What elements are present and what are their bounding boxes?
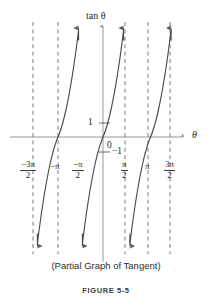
figure-number: FIGURE 5-5	[0, 286, 212, 295]
x-tick-label-neg-pi: −π	[50, 162, 60, 171]
x-tick-neg-pi-over-2-numerator: −π	[72, 160, 84, 171]
x-tick-label-neg-3pi-over-2: −3π 2	[20, 160, 36, 181]
x-tick-3pi-over-2-numerator: 3π	[164, 160, 175, 171]
x-tick-neg-3pi-over-2-denominator: 2	[26, 171, 31, 181]
x-tick-pi-over-2-denominator: 2	[122, 171, 127, 181]
x-tick-label-3pi-over-2: 3π 2	[164, 160, 175, 181]
y-tick-label-one: 1	[88, 118, 93, 128]
x-tick-3pi-over-2-denominator: 2	[167, 171, 172, 181]
y-axis-title: tan θ	[86, 11, 106, 21]
x-tick-label-pi-over-2: π 2	[121, 160, 128, 181]
x-tick-label-pi: π	[145, 162, 150, 171]
y-tick-label-minus-one: −1	[112, 147, 122, 157]
x-tick-label-neg-pi-over-2: −π 2	[72, 160, 84, 181]
tangent-figure: tan θ θ 1 0 −1 −3π 2 −π −π 2 π 2 π 3π 2 …	[0, 0, 212, 306]
x-tick-pi-over-2-numerator: π	[121, 160, 128, 171]
x-axis-title: θ	[192, 130, 197, 140]
x-tick-neg-3pi-over-2-numerator: −3π	[20, 160, 36, 171]
figure-caption: (Partial Graph of Tangent)	[0, 260, 212, 271]
x-tick-neg-pi-over-2-denominator: 2	[76, 171, 81, 181]
